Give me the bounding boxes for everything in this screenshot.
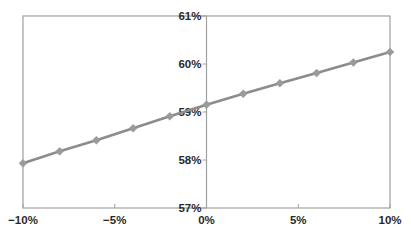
x-tick-label: 5%	[290, 214, 307, 226]
diamond-marker-icon	[349, 59, 357, 67]
diamond-marker-icon	[203, 101, 211, 109]
x-axis-labels: −10%−5%0%5%10%	[8, 214, 401, 226]
diamond-marker-icon	[166, 112, 174, 120]
diamond-marker-icon	[129, 124, 137, 132]
y-tick-label: 61%	[178, 10, 201, 22]
y-tick-label: 58%	[178, 154, 201, 166]
x-tick-label: 10%	[378, 214, 401, 226]
diamond-marker-icon	[276, 79, 284, 87]
diamond-marker-icon	[239, 90, 247, 98]
x-tick-label: −5%	[103, 214, 126, 226]
diamond-marker-icon	[19, 159, 27, 167]
x-tick-label: −10%	[8, 214, 38, 226]
diamond-marker-icon	[92, 136, 100, 144]
y-tick-label: 57%	[178, 202, 201, 214]
diamond-marker-icon	[56, 147, 64, 155]
y-tick-label: 60%	[178, 58, 201, 70]
x-tick-label: 0%	[198, 214, 215, 226]
diamond-marker-icon	[386, 48, 394, 56]
line-chart: −10%−5%0%5%10% 57%58%59%60%61%	[0, 0, 411, 238]
diamond-marker-icon	[313, 69, 321, 77]
